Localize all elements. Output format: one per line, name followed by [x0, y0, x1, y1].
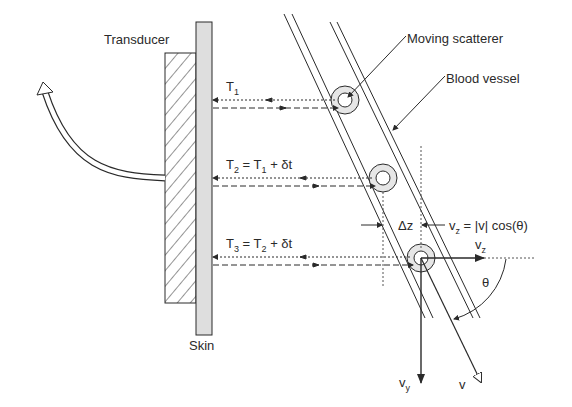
moving-scatterer-label: Moving scatterer — [407, 31, 504, 46]
velocity-equation: vz = |v| cos(θ) — [449, 218, 528, 236]
theta-label: θ — [482, 275, 489, 290]
theta-arc — [454, 259, 506, 319]
vy-label: vy — [399, 375, 411, 393]
vz-label: vz — [475, 237, 487, 255]
vessel-leader — [393, 76, 445, 130]
skin-layer — [196, 22, 212, 335]
doppler-diagram: Transducer Skin T1 — [0, 0, 572, 407]
transducer-block — [165, 53, 196, 303]
t2-label: T2 = T1 + δt — [226, 157, 293, 175]
transducer-label: Transducer — [104, 32, 170, 47]
v-vector — [421, 258, 481, 382]
scatterer-leader — [348, 36, 406, 97]
delta-z-label: Δz — [398, 218, 413, 233]
diagram-svg: Transducer Skin T1 — [0, 0, 572, 407]
blood-vessel-label: Blood vessel — [446, 71, 520, 86]
t3-label: T3 = T2 + δt — [226, 236, 293, 254]
echo-lines-t2 — [213, 176, 375, 188]
skin-label: Skin — [189, 338, 214, 353]
cable-arrow-icon — [37, 82, 165, 178]
v-label: v — [459, 377, 466, 392]
scatterer-2 — [369, 164, 397, 192]
echo-lines-t1 — [213, 98, 338, 110]
t1-label: T1 — [226, 79, 239, 97]
